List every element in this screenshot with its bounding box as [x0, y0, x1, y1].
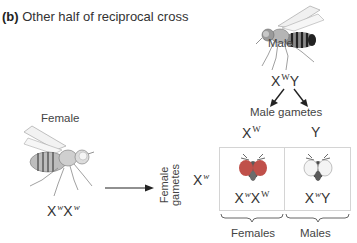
female-fly-icon — [12, 124, 102, 200]
female-genotype-x2: X — [63, 203, 72, 219]
female-gamete-xw: Xw — [193, 171, 209, 188]
male-genotype-allele: W — [281, 72, 290, 82]
males-offspring-label: Males — [300, 227, 331, 239]
punnett-square: XwXW XwY — [219, 147, 351, 211]
gamete-base: Y — [311, 124, 320, 140]
genotype-allele: W — [261, 189, 270, 199]
female-gamete-arrow-icon — [104, 182, 156, 194]
female-genotype-x1: X — [47, 203, 56, 219]
figure-title: (b) Other half of reciprocal cross — [2, 9, 188, 24]
gamete-base: X — [193, 172, 202, 188]
offspring-genotype-female: XwXW — [220, 189, 284, 206]
gamete-allele: W — [252, 124, 261, 134]
male-gamete-xw: XW — [242, 124, 261, 141]
male-genotype: XWY — [271, 72, 299, 89]
genotype-base: X — [305, 190, 314, 206]
figure-title-text: Other half of reciprocal cross — [22, 9, 188, 24]
genotype-base: X — [251, 190, 260, 206]
male-genotype-x: X — [271, 73, 280, 89]
red-eye-fly-head-icon — [237, 154, 269, 184]
punnett-cell-male-offspring: XwY — [285, 148, 350, 210]
male-parent-label: Male — [268, 37, 293, 49]
male-gametes-label: Male gametes — [250, 106, 322, 118]
female-parent-label: Female — [41, 112, 79, 124]
genotype-base: X — [234, 190, 243, 206]
female-gametes-label: Female gametes — [159, 160, 183, 210]
offspring-genotype-male: XwY — [285, 189, 350, 206]
male-genotype-y: Y — [290, 73, 299, 89]
punnett-cell-female-offspring: XwXW — [220, 148, 285, 210]
female-gametes-label-line2: gametes — [170, 160, 181, 210]
male-gamete-y: Y — [311, 124, 320, 140]
genotype-base: Y — [321, 190, 330, 206]
gamete-base: X — [242, 125, 251, 141]
figure-panel-label: (b) — [2, 9, 19, 24]
male-gamete-arrows-icon — [260, 88, 320, 108]
male-fly-icon — [248, 0, 338, 72]
offspring-brackets-icon — [219, 213, 353, 225]
female-genotype-allele2: w — [74, 202, 80, 212]
gamete-allele: w — [203, 171, 209, 181]
white-eye-fly-head-icon — [302, 154, 334, 184]
female-genotype: XwXw — [47, 202, 80, 219]
females-offspring-label: Females — [231, 227, 275, 239]
